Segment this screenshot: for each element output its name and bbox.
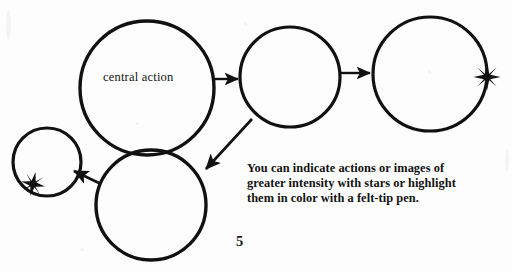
node-central-action[interactable] — [80, 21, 214, 155]
star-icon-right-node — [474, 64, 501, 91]
page-number: 5 — [236, 233, 243, 250]
node-top-middle[interactable] — [240, 27, 340, 127]
caption-line-2: greater intensity with stars or highligh… — [247, 176, 503, 191]
node-bottom-center[interactable] — [96, 150, 206, 260]
node-label-central-action: central action — [103, 70, 173, 85]
arrow-middle-to-bottom-center — [206, 119, 252, 169]
caption-line-3: them in color with a felt-tip pen. — [247, 191, 503, 206]
caption-line-1: You can indicate actions or images of — [247, 161, 503, 176]
book-page: central action You can indicate actions … — [0, 0, 512, 272]
node-top-right[interactable] — [373, 17, 487, 131]
caption-text: You can indicate actions or images of gr… — [247, 161, 503, 207]
node-bottom-left[interactable] — [13, 128, 81, 196]
bubble-map-diagram — [0, 0, 512, 272]
diagram-nodes — [13, 17, 487, 260]
